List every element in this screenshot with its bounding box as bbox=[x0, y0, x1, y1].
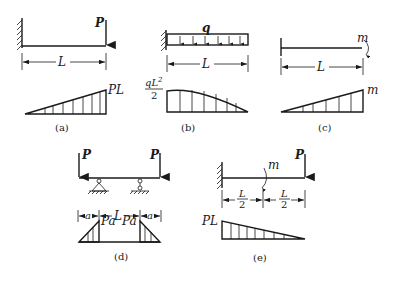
panel-d: P P bbox=[78, 148, 161, 262]
dimension-line: L 2 L 2 bbox=[222, 188, 305, 210]
moment-left-label: Pa bbox=[100, 214, 116, 228]
moment-label-exponent: 2 bbox=[157, 76, 163, 84]
caption: (c) bbox=[318, 122, 332, 133]
moment-diagram: qL2 2 bbox=[145, 76, 248, 112]
caption: (e) bbox=[253, 252, 267, 263]
fixed-support-icon bbox=[217, 162, 222, 189]
moment-label-numerator: qL bbox=[145, 77, 158, 88]
fixed-support-icon bbox=[17, 18, 22, 50]
panel-e: P m L 2 L 2 bbox=[201, 148, 305, 263]
svg-text:qL2: qL2 bbox=[145, 76, 163, 88]
moment-label: qL2 2 bbox=[145, 76, 163, 101]
span-right-label: a bbox=[147, 210, 153, 221]
caption: (b) bbox=[181, 122, 195, 133]
dimension-line: a L a bbox=[78, 209, 161, 223]
span-left-denominator: 2 bbox=[239, 199, 245, 210]
distributed-load-icon bbox=[167, 34, 248, 45]
load-label: P bbox=[94, 16, 105, 30]
caption: (a) bbox=[55, 122, 69, 133]
moment-right-label: Pa bbox=[121, 214, 137, 228]
moment-diagram: PL bbox=[25, 83, 124, 114]
panel-b: q L qL2 2 (b) bbox=[145, 21, 248, 133]
span-right-label: L 2 bbox=[279, 188, 290, 210]
caption: (d) bbox=[114, 251, 128, 262]
span-left-numerator: L bbox=[238, 188, 246, 199]
fixed-support-icon bbox=[161, 30, 166, 51]
moment-diagram: m bbox=[281, 83, 378, 112]
moment-label: PL bbox=[107, 83, 124, 97]
load-right-label: P bbox=[149, 148, 160, 162]
moment-diagram: PL bbox=[201, 214, 305, 239]
span-label: L bbox=[57, 55, 66, 69]
roller-support-icon bbox=[130, 179, 149, 194]
span-label: L bbox=[201, 57, 210, 71]
load-label: m bbox=[357, 31, 368, 45]
moment-label: PL bbox=[201, 214, 218, 228]
beam-diagrams-figure: P L PL (a) bbox=[0, 0, 393, 281]
load-left-label: P bbox=[81, 148, 92, 162]
span-right-denominator: 2 bbox=[281, 199, 287, 210]
moment-label-denominator: 2 bbox=[151, 90, 157, 101]
panel-c: m L m (c) bbox=[281, 31, 378, 133]
load-label: q bbox=[202, 21, 210, 35]
span-left-label: a bbox=[85, 210, 91, 221]
dimension-line: L bbox=[281, 58, 363, 75]
load-moment-label: m bbox=[268, 158, 279, 172]
span-right-numerator: L bbox=[280, 188, 288, 199]
span-left-label: L 2 bbox=[237, 188, 248, 210]
dimension-line: L bbox=[22, 53, 106, 70]
pin-support-icon bbox=[88, 179, 109, 194]
moment-label: m bbox=[367, 83, 378, 97]
load-point-label: P bbox=[294, 148, 305, 162]
panel-a: P L PL (a) bbox=[17, 16, 124, 133]
dimension-line: L bbox=[167, 55, 248, 72]
span-label: L bbox=[316, 60, 325, 74]
